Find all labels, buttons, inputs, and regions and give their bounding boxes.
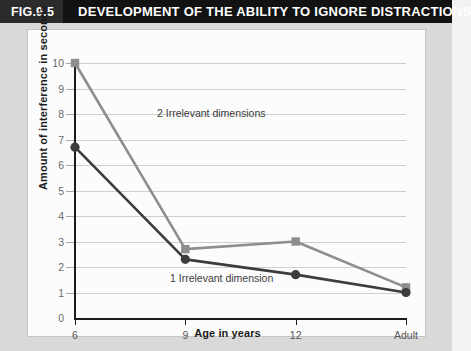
x-tick-label: 12 (290, 329, 302, 341)
plot-area: 012345678910 6912Adult 2 Irrelevant dime… (75, 63, 406, 318)
y-tick-label: 6 (58, 159, 64, 171)
x-tick-mark (185, 318, 186, 325)
y-tick-mark (66, 165, 74, 166)
x-tick-mark (296, 318, 297, 325)
series-label-1-irrelevant-dimension: 1 Irrelevant dimension (170, 272, 273, 284)
figure-title: DEVELOPMENT OF THE ABILITY TO IGNORE DIS… (78, 4, 471, 19)
y-tick-label: 3 (58, 236, 64, 248)
series-1 (71, 59, 410, 292)
y-axis-title: Amount of interference in seconds (37, 5, 49, 190)
y-tick-mark (66, 191, 74, 192)
y-tick-mark (66, 293, 74, 294)
y-tick-label: 2 (58, 261, 64, 273)
y-tick-label: 5 (58, 185, 64, 197)
series-label-2-irrelevant-dimensions: 2 Irrelevant dimensions (157, 107, 266, 119)
y-tick-label: 0 (58, 312, 64, 324)
y-tick-mark (66, 267, 74, 268)
data-point-circle (181, 255, 190, 264)
x-tick-mark (406, 318, 407, 325)
x-tick-label: Adult (394, 329, 418, 341)
chart-panel: Amount of interference in seconds Age in… (27, 29, 426, 337)
y-tick-mark (66, 242, 74, 243)
data-point-circle (70, 143, 79, 152)
y-tick-label: 9 (58, 83, 64, 95)
y-tick-label: 1 (58, 287, 64, 299)
series-line (75, 147, 406, 292)
data-point-square (291, 237, 299, 245)
series-line (75, 63, 406, 287)
data-point-circle (401, 288, 410, 297)
y-tick-label: 4 (58, 210, 64, 222)
x-tick-label: 9 (182, 329, 188, 341)
data-point-square (71, 59, 79, 67)
figure-number-box: FIG.9.5 (0, 0, 63, 23)
x-tick-mark (75, 318, 76, 325)
x-tick-label: 6 (72, 329, 78, 341)
figure-frame: Source: Strutt et al. (1975). Amount of … (0, 23, 452, 351)
y-tick-mark (66, 216, 74, 217)
y-tick-mark (66, 89, 74, 90)
figure-header: FIG.9.5 DEVELOPMENT OF THE ABILITY TO IG… (0, 0, 452, 23)
y-tick-label: 8 (58, 108, 64, 120)
x-axis-title: Age in years (28, 327, 427, 339)
data-point-circle (291, 270, 300, 279)
y-tick-mark (66, 114, 74, 115)
x-axis-line (74, 318, 407, 320)
data-point-square (181, 245, 189, 253)
y-tick-label: 10 (52, 57, 64, 69)
y-tick-label: 7 (58, 134, 64, 146)
y-tick-mark (66, 140, 74, 141)
